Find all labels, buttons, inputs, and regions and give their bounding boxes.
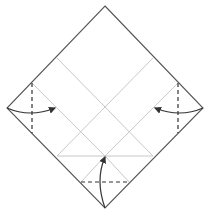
creases	[32, 58, 178, 182]
right-fold-arrow-icon	[155, 108, 203, 113]
fold-arrows	[7, 108, 203, 208]
valley-folds	[32, 83, 178, 182]
left-fold-arrow-icon	[7, 108, 55, 113]
origami-diagram	[0, 0, 210, 215]
crease-line	[105, 156, 129, 182]
